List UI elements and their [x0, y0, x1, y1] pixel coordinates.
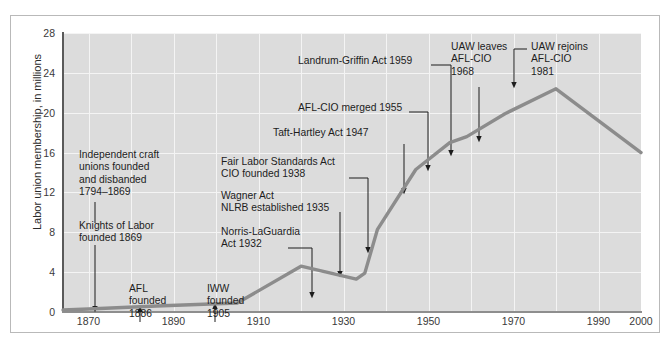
- annotation-line: Landrum-Griffin Act 1959: [298, 55, 412, 67]
- annotation-line: 1886: [129, 308, 166, 320]
- annotation-line: Taft-Hartley Act 1947: [273, 127, 369, 139]
- annotation-line: 1981: [531, 66, 588, 78]
- annotation-line: AFL-CIO merged 1955: [298, 102, 402, 114]
- gridline-horizontal: [63, 272, 641, 273]
- annotation-fair-labor-standards-cio: Fair Labor Standards ActCIO founded 1938: [221, 156, 335, 181]
- annotation-line: UAW leaves: [451, 41, 507, 53]
- annotation-taft-hartley: Taft-Hartley Act 1947: [273, 127, 369, 139]
- annotation-line: Act 1932: [221, 238, 300, 250]
- annotation-line: AFL-CIO: [531, 53, 588, 65]
- gridline-vertical: [429, 33, 430, 312]
- gridline-vertical: [216, 33, 217, 312]
- annotation-knights-of-labor: Knights of Laborfounded 1869: [79, 220, 154, 245]
- annotation-landrum-griffin: Landrum-Griffin Act 1959: [298, 55, 412, 67]
- annotation-wagner-act-nlrb: Wagner ActNLRB established 1935: [221, 190, 329, 215]
- gridline-vertical: [344, 33, 345, 312]
- annotation-line: 1794–1869: [79, 186, 159, 198]
- gridline-vertical: [174, 33, 175, 312]
- y-tick-label: 20: [25, 108, 55, 118]
- x-tick-label: 1930: [314, 315, 374, 327]
- annotation-line: founded 1869: [79, 232, 154, 244]
- annotation-independent-craft-unions: Independent craftunions foundedand disba…: [79, 149, 159, 199]
- annotation-line: Fair Labor Standards Act: [221, 156, 335, 168]
- y-tick-label: 4: [25, 267, 55, 277]
- y-tick-label: 24: [25, 68, 55, 78]
- x-tick-label: 1870: [59, 315, 119, 327]
- annotation-afl-founded: AFLfounded1886: [129, 283, 166, 320]
- annotation-afl-cio-merged: AFL-CIO merged 1955: [298, 102, 402, 114]
- annotation-line: 1968: [451, 66, 507, 78]
- chart-figure: Labor union membership, in millions 0481…: [10, 15, 660, 333]
- gridline-vertical: [386, 33, 387, 312]
- annotation-line: UAW rejoins: [531, 41, 588, 53]
- annotation-uaw-leaves: UAW leavesAFL-CIO1968: [451, 41, 507, 78]
- gridline-horizontal: [63, 33, 641, 34]
- y-tick-label: 28: [25, 28, 55, 38]
- x-tick-label: 1970: [484, 315, 544, 327]
- annotation-line: AFL-CIO: [451, 53, 507, 65]
- annotation-iww-founded: IWWfounded1905: [207, 283, 244, 320]
- x-tick-label: 1950: [399, 315, 459, 327]
- annotation-line: Wagner Act: [221, 190, 329, 202]
- annotation-norris-laguardia: Norris-LaGuardiaAct 1932: [221, 226, 300, 251]
- annotation-line: Norris-LaGuardia: [221, 226, 300, 238]
- y-tick-label: 16: [25, 148, 55, 158]
- annotation-line: AFL: [129, 283, 166, 295]
- y-axis-line: [62, 32, 64, 313]
- annotation-line: IWW: [207, 283, 244, 295]
- x-tick-label: 2000: [611, 315, 669, 327]
- annotation-line: founded: [207, 295, 244, 307]
- annotation-line: and disbanded: [79, 174, 159, 186]
- annotation-line: CIO founded 1938: [221, 168, 335, 180]
- annotation-line: NLRB established 1935: [221, 202, 329, 214]
- annotation-line: Knights of Labor: [79, 220, 154, 232]
- annotation-uaw-rejoins: UAW rejoinsAFL-CIO1981: [531, 41, 588, 78]
- y-tick-label: 12: [25, 187, 55, 197]
- y-tick-label: 8: [25, 227, 55, 237]
- annotation-line: unions founded: [79, 161, 159, 173]
- gridline-vertical: [599, 33, 600, 312]
- y-tick-label: 0: [25, 307, 55, 317]
- annotation-line: founded: [129, 295, 166, 307]
- annotation-line: 1905: [207, 308, 244, 320]
- gridline-vertical: [514, 33, 515, 312]
- annotation-line: Independent craft: [79, 149, 159, 161]
